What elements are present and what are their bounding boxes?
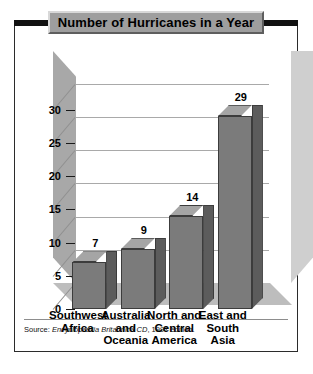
y-axis-label: 20	[49, 170, 61, 182]
gridline	[75, 84, 269, 85]
y-axis-label: 25	[49, 137, 61, 149]
bar-top-face	[72, 251, 106, 262]
y-axis-label: 15	[49, 203, 61, 215]
bar-side-face	[252, 105, 263, 309]
plot-area: 051015202530 791429	[53, 51, 269, 283]
source-note: Source: Encyclopædia Britannica CD, 1997…	[24, 325, 195, 334]
bar-front-face	[218, 116, 252, 309]
bar-front-face	[169, 216, 203, 309]
bar-value-label: 7	[78, 237, 112, 249]
y-axis-tick	[66, 243, 75, 244]
chart-title: Number of Hurricanes in a Year	[58, 15, 254, 30]
bar: 29	[218, 105, 252, 309]
bar-top-face	[121, 238, 155, 249]
bar-top-face	[169, 205, 203, 216]
top-rule-right	[262, 20, 298, 26]
x-axis-category-labels: SouthwestAfricaAustraliaandOceaniaNorth …	[53, 309, 291, 367]
source-rest: , 1997 edition.	[147, 325, 194, 334]
bar: 7	[72, 251, 106, 309]
chart-title-banner: Number of Hurricanes in a Year	[48, 11, 264, 34]
bar: 9	[121, 238, 155, 309]
bar-top-face	[218, 105, 252, 116]
category-label-line: South Asia	[195, 322, 252, 347]
bar-value-label: 9	[127, 224, 161, 236]
top-rule-left	[14, 20, 50, 26]
bar-front-face	[72, 262, 106, 309]
bar-side-face	[203, 205, 214, 309]
bar-value-label: 14	[175, 191, 209, 203]
y-axis-tick	[66, 176, 75, 177]
y-axis-tick	[66, 110, 75, 111]
x-axis-category-label: East andSouth Asia	[195, 309, 252, 347]
y-axis-label: 30	[49, 104, 61, 116]
source-divider	[24, 319, 288, 320]
plot-right-wall	[291, 51, 312, 283]
source-lead: Source:	[24, 325, 52, 334]
bar-side-face	[155, 238, 166, 309]
bar: 14	[169, 205, 203, 309]
bar-value-label: 29	[224, 91, 258, 103]
y-axis-label: 10	[49, 237, 61, 249]
y-axis-tick	[66, 209, 75, 210]
bar-front-face	[121, 249, 155, 309]
source-work: Encyclopædia Britannica CD	[52, 325, 147, 334]
y-axis-tick	[66, 143, 75, 144]
chart-figure: Number of Hurricanes in a Year 051015202…	[14, 22, 298, 352]
y-axis-label: 5	[55, 270, 61, 282]
